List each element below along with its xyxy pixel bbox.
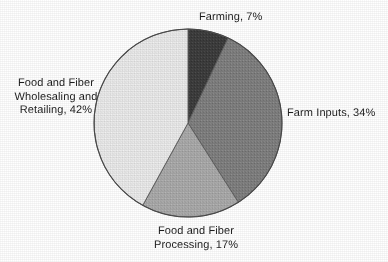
pie-slices (94, 29, 282, 217)
pie-chart-canvas (0, 0, 388, 262)
pie-chart: Farming, 7% Farm Inputs, 34% Food and Fi… (0, 0, 388, 262)
pie-label-farming: Farming, 7% (199, 11, 262, 25)
pie-label-processing: Food and Fiber Processing, 17% (136, 225, 256, 252)
pie-label-farm-inputs: Farm Inputs, 34% (287, 107, 375, 121)
pie-label-wholesaling-retailing: Food and Fiber Wholesaling and Retailing… (6, 77, 106, 118)
